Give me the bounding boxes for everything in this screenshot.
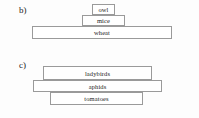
pyramid-level-aphids: aphids: [33, 80, 162, 92]
pyramid-level-label-aphids: aphids: [89, 83, 107, 90]
pyramid-level-owl: owl: [92, 4, 115, 15]
pyramid-level-label-owl: owl: [98, 6, 108, 13]
pyramid-section-b: b) owl mice wheat: [0, 0, 199, 55]
pyramid-diagram-root: b) owl mice wheat c) ladybirds aphids to…: [0, 0, 199, 118]
pyramid-level-ladybirds: ladybirds: [43, 66, 152, 80]
pyramid-level-label-ladybirds: ladybirds: [85, 70, 110, 77]
pyramid-level-tomatoes: tomatoes: [50, 92, 143, 105]
pyramid-level-label-tomatoes: tomatoes: [84, 95, 108, 102]
pyramid-level-mice: mice: [82, 15, 125, 26]
pyramid-level-label-mice: mice: [97, 17, 110, 24]
pyramid-level-label-wheat: wheat: [94, 29, 110, 36]
pyramid-section-c: c) ladybirds aphids tomatoes: [0, 55, 199, 118]
pyramid-level-wheat: wheat: [32, 26, 172, 39]
section-label-b: b): [19, 5, 27, 15]
section-label-c: c): [19, 60, 26, 70]
